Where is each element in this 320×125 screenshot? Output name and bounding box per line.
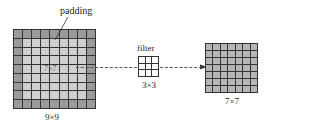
grid-cell xyxy=(236,65,242,71)
grid-cell xyxy=(228,44,234,50)
grid-cell xyxy=(228,86,234,92)
grid-cell xyxy=(152,57,158,63)
dashed-arrow-right xyxy=(160,67,202,68)
grid-cell xyxy=(243,79,249,85)
grid-cell xyxy=(213,72,219,78)
grid-cell xyxy=(236,72,242,78)
grid-cell xyxy=(206,44,212,50)
grid-cell xyxy=(228,51,234,57)
grid-cell xyxy=(228,79,234,85)
grid-cell xyxy=(228,58,234,64)
grid-cell xyxy=(251,44,257,50)
grid-cell xyxy=(152,70,158,76)
grid-cell xyxy=(243,72,249,78)
filter-grid xyxy=(138,56,159,77)
grid-cell xyxy=(251,58,257,64)
grid-cell xyxy=(146,70,152,76)
filter-title: filter xyxy=(137,44,155,53)
grid-cell xyxy=(206,79,212,85)
grid-cell xyxy=(221,58,227,64)
grid-cell xyxy=(213,44,219,50)
grid-cell xyxy=(236,79,242,85)
grid-cell xyxy=(213,86,219,92)
grid-cell xyxy=(251,86,257,92)
grid-cell xyxy=(236,44,242,50)
grid-cell xyxy=(221,51,227,57)
grid-cell xyxy=(206,72,212,78)
grid-cell xyxy=(236,86,242,92)
grid-cell xyxy=(251,79,257,85)
grid-cell xyxy=(243,44,249,50)
grid-cell xyxy=(206,58,212,64)
grid-cell xyxy=(221,65,227,71)
grid-cell xyxy=(251,65,257,71)
grid-cell xyxy=(251,72,257,78)
grid-cell xyxy=(139,64,145,70)
grid-cell xyxy=(146,64,152,70)
grid-cell xyxy=(146,57,152,63)
grid-cell xyxy=(221,72,227,78)
dashed-arrow-left xyxy=(76,67,137,68)
grid-cell xyxy=(243,65,249,71)
grid-cell xyxy=(228,65,234,71)
grid-cell xyxy=(236,58,242,64)
grid-cell xyxy=(213,58,219,64)
grid-cell xyxy=(221,79,227,85)
grid-cell xyxy=(213,65,219,71)
grid-cell xyxy=(213,79,219,85)
output-size-label: 7×7 xyxy=(225,97,239,106)
grid-cell xyxy=(243,58,249,64)
grid-cell xyxy=(139,57,145,63)
filter-size-label: 3×3 xyxy=(142,81,156,90)
grid-cell xyxy=(152,64,158,70)
grid-cell xyxy=(236,51,242,57)
grid-cell xyxy=(206,86,212,92)
grid-cell xyxy=(243,51,249,57)
grid-cell xyxy=(213,51,219,57)
grid-cell xyxy=(206,65,212,71)
grid-cell xyxy=(221,44,227,50)
grid-cell xyxy=(243,86,249,92)
grid-cell xyxy=(139,70,145,76)
grid-cell xyxy=(228,72,234,78)
grid-cell xyxy=(206,51,212,57)
grid-cell xyxy=(221,86,227,92)
grid-cell xyxy=(251,51,257,57)
output-grid xyxy=(205,43,258,93)
